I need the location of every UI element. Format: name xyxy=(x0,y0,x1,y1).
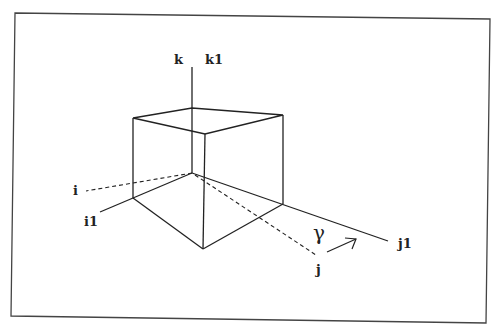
i-axis xyxy=(86,173,192,191)
i1-axis xyxy=(100,173,192,212)
label-gamma: γ xyxy=(313,221,325,245)
coordinate-rotation-diagram: k k1 i i1 j j1 γ xyxy=(0,0,501,336)
label-j: j xyxy=(315,262,321,277)
cube-bottom-right xyxy=(203,204,283,249)
j1-axis xyxy=(192,173,388,241)
label-i1: i1 xyxy=(84,214,98,229)
label-j1: j1 xyxy=(397,236,412,251)
label-i: i xyxy=(73,183,78,198)
frame-border xyxy=(11,13,490,323)
cube-bottom-left xyxy=(133,198,203,249)
diagram-canvas: k k1 i i1 j j1 γ xyxy=(0,0,501,336)
cube-top-face xyxy=(133,108,283,134)
label-k1: k1 xyxy=(205,52,223,67)
cube-edge-front xyxy=(203,134,205,249)
label-k: k xyxy=(174,52,184,67)
rotation-arrow xyxy=(327,239,356,252)
